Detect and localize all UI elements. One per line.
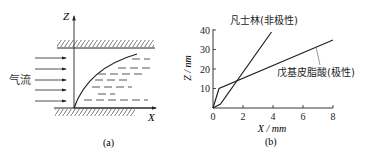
x-tick-8: 8 <box>331 111 336 122</box>
y-tick-30: 30 <box>200 44 210 55</box>
x-tick-2: 2 <box>241 111 246 122</box>
panel-b-caption: (b) <box>265 136 277 148</box>
panel-a-caption: (a) <box>103 137 114 149</box>
y-tick-10: 10 <box>200 83 210 94</box>
label-stearic: 戊基皮脂酸(极性) <box>277 66 355 78</box>
z-axis-label: Z <box>63 10 70 22</box>
chart-xlabel: X / mm <box>257 123 286 134</box>
top-wall-hatch <box>57 40 154 47</box>
panel-a: Z X 气流 (a) <box>9 10 156 149</box>
bottom-wall-hatch <box>55 109 135 116</box>
y-tick-20: 20 <box>200 64 210 75</box>
label-vaseline: 凡士林(非极性) <box>230 14 298 26</box>
liquid-dashes <box>84 59 152 100</box>
chart-ylabel: Z / nm <box>182 55 193 81</box>
panel-b: 10 20 30 40 0 2 4 6 8 X / mm Z / nm 凡士林(… <box>182 14 355 148</box>
x-tick-6: 6 <box>301 111 306 122</box>
airflow-label: 气流 <box>9 73 31 87</box>
x-tick-0: 0 <box>211 111 216 122</box>
y-tick-40: 40 <box>200 25 210 36</box>
x-tick-4: 4 <box>271 111 276 122</box>
airflow-arrows <box>35 58 66 101</box>
stearic-leader <box>316 47 320 65</box>
x-axis-label: X <box>147 111 156 123</box>
